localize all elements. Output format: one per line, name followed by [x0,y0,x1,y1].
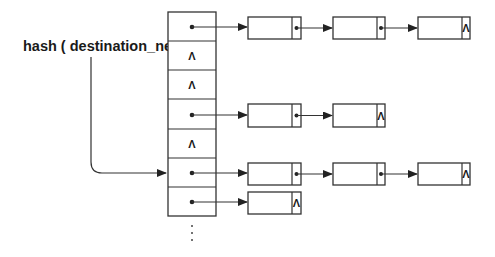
list-node: Λ [418,163,470,185]
null-icon: Λ [188,79,196,91]
chain-bucket-0: Λ [248,17,470,39]
chain-bucket-5: Λ [248,163,470,185]
list-node [333,17,417,39]
continuation-dots-icon [191,225,193,241]
hash-arrow [91,57,166,173]
null-icon: Λ [462,22,470,34]
hash-function-label: hash ( destination_net ) [23,38,186,54]
chain-bucket-6: Λ [248,192,301,214]
list-node [248,163,332,185]
null-icon: Λ [462,168,470,180]
hash-table: Λ Λ Λ [168,12,247,241]
null-icon: Λ [188,138,196,150]
list-node [248,104,332,127]
list-node: Λ [248,192,301,214]
list-node: Λ [418,17,470,39]
null-icon: Λ [377,110,385,122]
list-node [248,17,332,39]
hash-table-diagram: hash ( destination_net ) Λ Λ Λ [0,0,495,257]
chain-bucket-3: Λ [248,104,385,127]
list-node [333,163,417,185]
null-icon: Λ [188,50,196,62]
null-icon: Λ [293,197,301,209]
list-node: Λ [333,104,385,127]
